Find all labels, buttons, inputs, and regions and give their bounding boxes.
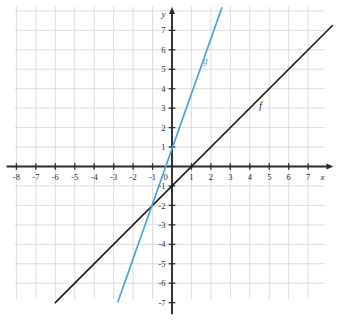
series-label-g: g	[203, 56, 208, 66]
y-tick-label: -3	[158, 220, 165, 230]
y-tick-label: 3	[161, 103, 165, 113]
coordinate-graph: -8-7-6-5-4-3-2-112345670 -7-6-5-4-3-2-11…	[0, 0, 346, 324]
y-tick-label: -2	[158, 201, 165, 211]
y-tick-label: -5	[158, 259, 165, 269]
y-tick-label: 7	[161, 25, 165, 35]
y-axis-label: y	[161, 9, 166, 19]
x-tick-label: -2	[130, 172, 137, 182]
x-tick-label: 4	[248, 172, 253, 182]
x-tick-label: 2	[209, 172, 213, 182]
x-tick-label: 3	[228, 172, 232, 182]
y-tick-label: 2	[161, 123, 165, 133]
x-tick-label: -8	[13, 172, 20, 182]
plot-background	[0, 0, 346, 324]
x-tick-label: -6	[52, 172, 59, 182]
x-tick-label: 5	[267, 172, 271, 182]
x-tick-label: -3	[110, 172, 117, 182]
x-tick-label: -4	[91, 172, 99, 182]
x-tick-label: -7	[32, 172, 39, 182]
y-tick-label: 5	[161, 64, 165, 74]
y-tick-label: 1	[161, 142, 165, 152]
y-tick-label: -4	[158, 239, 166, 249]
plot-svg: -8-7-6-5-4-3-2-112345670 -7-6-5-4-3-2-11…	[0, 0, 346, 324]
x-tick-label: 1	[189, 172, 193, 182]
y-tick-label: 6	[161, 45, 165, 55]
x-tick-label: -5	[71, 172, 78, 182]
x-tick-label: -1	[149, 172, 156, 182]
x-axis-label: x	[319, 172, 324, 182]
x-tick-label: 7	[306, 172, 310, 182]
y-tick-label: -7	[158, 298, 165, 308]
x-tick-label: 6	[287, 172, 291, 182]
y-tick-label: -6	[158, 278, 165, 288]
